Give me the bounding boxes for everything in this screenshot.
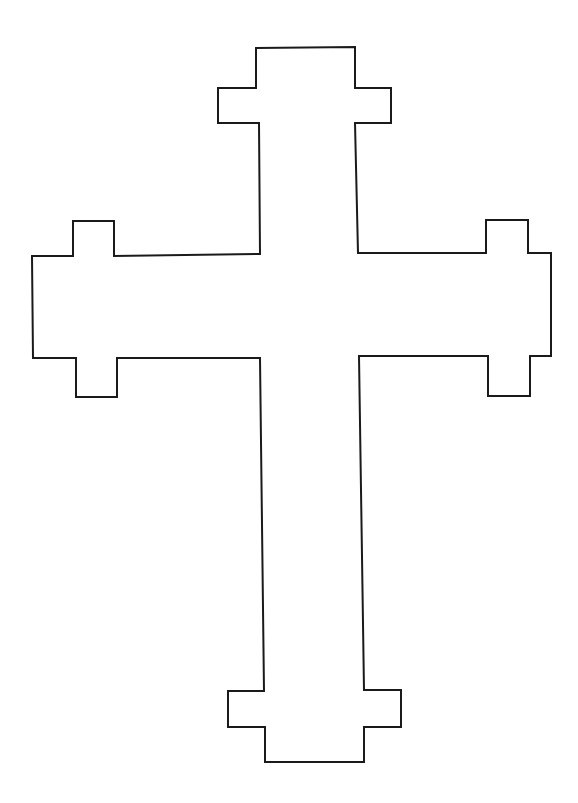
drawing-canvas xyxy=(0,0,578,803)
cross-outline-shape xyxy=(32,47,551,762)
